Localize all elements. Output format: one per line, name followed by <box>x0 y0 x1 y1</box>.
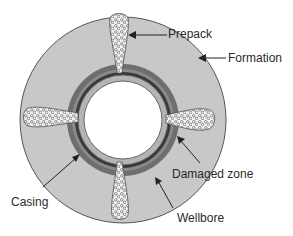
wellbore-label: Wellbore <box>177 212 224 224</box>
inner-bore <box>84 81 162 159</box>
casing-label: Casing <box>11 196 48 208</box>
damaged-zone-label: Damaged zone <box>172 168 253 180</box>
formation-label: Formation <box>228 52 282 64</box>
prepack-label: Prepack <box>168 28 212 40</box>
